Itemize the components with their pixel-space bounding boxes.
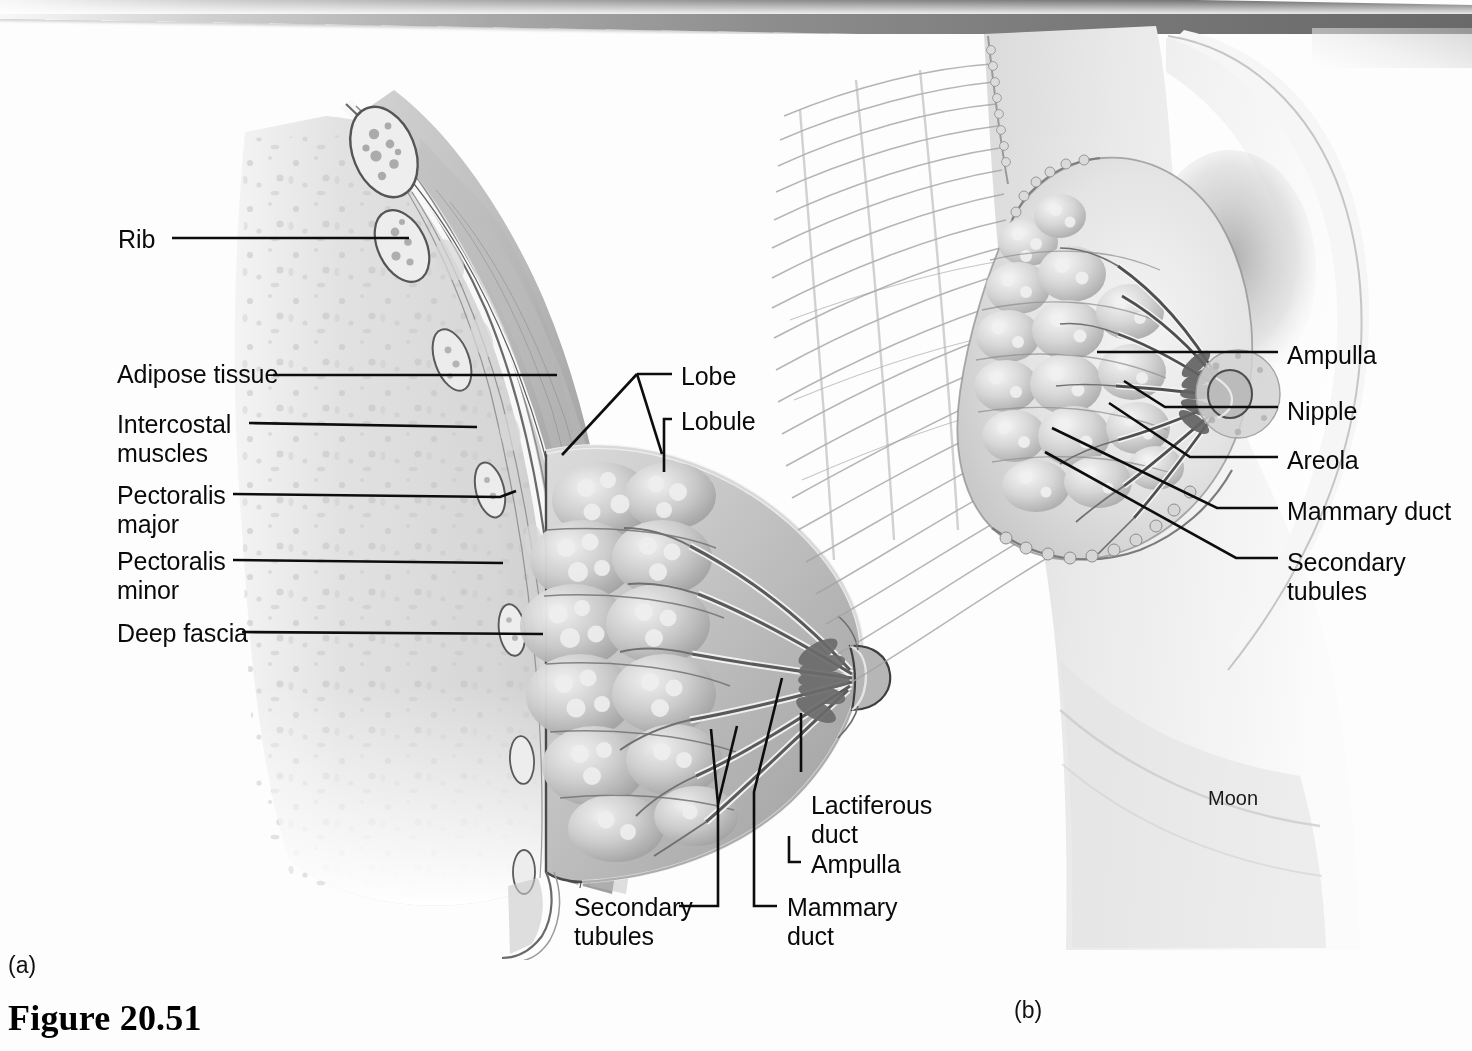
- label-lobe: Lobe: [681, 362, 736, 391]
- label-areola: Areola: [1287, 446, 1359, 475]
- leader-areola: [1109, 403, 1278, 457]
- mammary-lobes-b: [974, 194, 1184, 512]
- rib-sections: [338, 97, 536, 894]
- label-lactiferous-duct: Lactiferous duct: [811, 791, 932, 849]
- leader-secondary-tubules-a2: [718, 726, 737, 804]
- illustration-panel-a: [150, 60, 910, 960]
- breast-mass-b: [957, 155, 1280, 564]
- label-deep-fascia: Deep fascia: [117, 619, 248, 648]
- label-intercostal-muscles: Intercostal muscles: [117, 410, 231, 468]
- torso-silhouette: [984, 26, 1369, 950]
- figure-caption: Figure 20.51: [8, 997, 202, 1039]
- nipple-areola: [838, 616, 890, 738]
- pectoralis-layers: [418, 138, 634, 894]
- label-ampulla-a: Ampulla: [811, 850, 901, 879]
- panel-a-tag: (a): [8, 952, 36, 979]
- adipose-tissue-mass: [210, 110, 610, 930]
- breast-cut-edge-superior: [1011, 155, 1100, 220]
- chest-wall-skin: [346, 104, 569, 878]
- leader-deep-fascia: [242, 632, 543, 634]
- label-secondary-tubules-b: Secondary tubules: [1287, 548, 1406, 606]
- leader-ampulla-a: [789, 836, 801, 862]
- leader-pectoralis-major: [233, 491, 516, 497]
- leader-intercostal-muscles: [249, 423, 477, 427]
- chest-wall-layers: [362, 90, 623, 894]
- leader-nipple: [1124, 381, 1278, 407]
- leader-mammary-duct-a: [754, 678, 782, 906]
- leader-lobe-branch1: [562, 374, 637, 455]
- leader-secondary-tubules-b: [1045, 452, 1278, 558]
- page-corner-shadow: [1312, 28, 1472, 68]
- artist-credit: Moon: [1208, 787, 1258, 810]
- scan-edge-artifact: [0, 0, 1472, 34]
- label-ampulla-b: Ampulla: [1287, 341, 1377, 370]
- mammary-lobes: [520, 462, 738, 862]
- nipple-areola-b: [1196, 350, 1280, 438]
- deep-fascia-line: [386, 152, 588, 888]
- pectoral-muscle-hatching: [772, 64, 1054, 682]
- label-pectoralis-major: Pectoralis major: [117, 481, 226, 539]
- label-pectoralis-minor: Pectoralis minor: [117, 547, 226, 605]
- label-mammary-duct-a: Mammary duct: [787, 893, 897, 951]
- label-rib: Rib: [118, 225, 155, 254]
- leader-lobule: [664, 419, 672, 472]
- label-nipple: Nipple: [1287, 397, 1357, 426]
- figure-page: RibAdipose tissueIntercostal musclesPect…: [0, 0, 1472, 1051]
- label-lobule: Lobule: [681, 407, 755, 436]
- label-adipose-tissue: Adipose tissue: [117, 360, 278, 389]
- leader-secondary-tubules-a: [679, 729, 718, 906]
- label-secondary-tubules-a: Secondary tubules: [574, 893, 693, 951]
- inframammary-fold: [502, 872, 560, 960]
- upper-dissection-strip: [987, 36, 1011, 184]
- leader-mammary-duct-b: [1052, 428, 1278, 508]
- breast-cut-edge: [992, 470, 1232, 564]
- duct-system-b: [1056, 248, 1225, 554]
- panel-b-tag: (b): [1014, 997, 1042, 1024]
- label-mammary-duct-b: Mammary duct: [1287, 497, 1451, 526]
- leader-pectoralis-minor: [233, 560, 503, 563]
- leader-lobe-branch2: [637, 374, 662, 454]
